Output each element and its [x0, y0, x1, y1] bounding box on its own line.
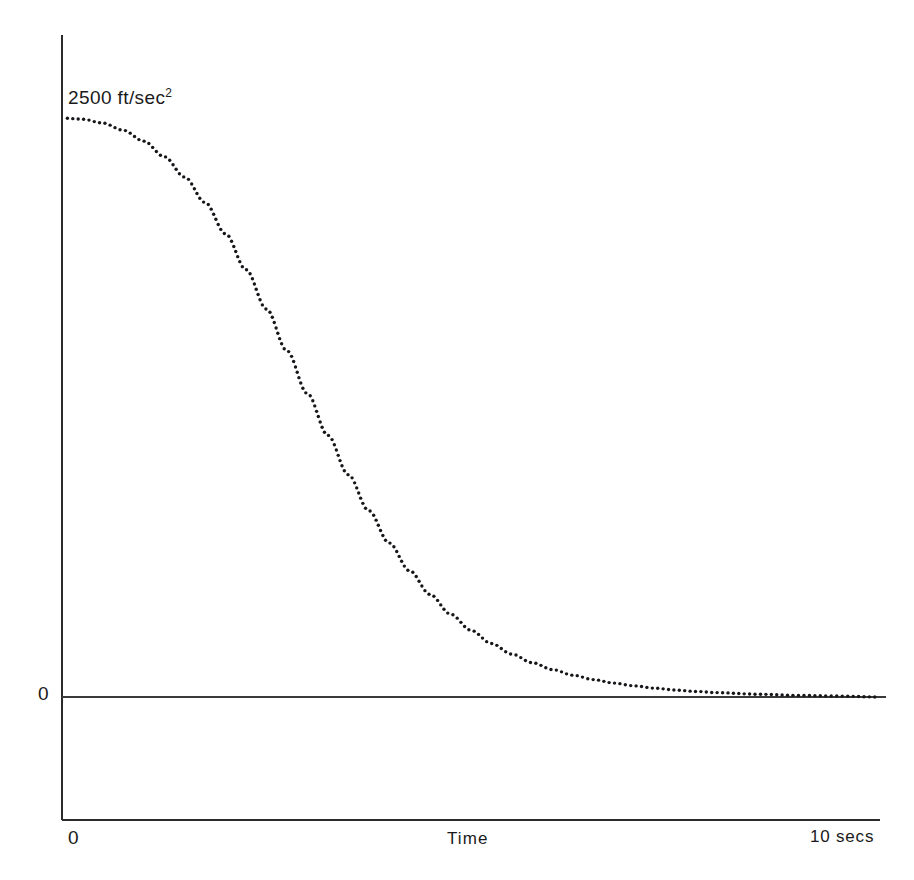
y-max-value: 2500 — [68, 87, 112, 108]
acceleration-decay-chart: 2500 ft/sec2 0 0 Time 10 secs — [0, 0, 914, 880]
y-max-units: ft/sec — [112, 87, 165, 108]
y-zero-label: 0 — [38, 684, 49, 703]
x-axis-title: Time — [447, 830, 489, 847]
chart-plot-area — [0, 0, 914, 880]
y-max-annotation: 2500 ft/sec2 — [68, 88, 172, 107]
y-max-exponent: 2 — [165, 86, 172, 100]
x-max-label: 10 secs — [810, 828, 874, 845]
x-min-label: 0 — [68, 828, 79, 847]
data-curve-dotted — [66, 117, 877, 699]
